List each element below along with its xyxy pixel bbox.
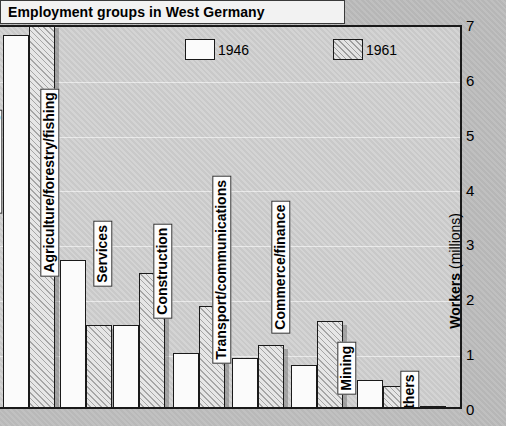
y-axis-title: Workers (millions) [447,213,463,329]
chart-title-box: Employment groups in West Germany [0,0,345,24]
chart-figure: 19461961 ManufacturingAgriculture/forest… [0,0,506,426]
category-labels: ManufacturingAgriculture/forestry/fishin… [0,0,460,426]
y-axis-title-main: Workers [447,273,463,329]
y-tick-1: 1 [466,346,474,363]
y-tick-5: 5 [466,126,474,143]
bottom-strip [0,409,506,426]
category-label-transport-communications: Transport/communications [212,176,231,364]
y-tick-4: 4 [466,181,474,198]
y-tick-0: 0 [466,401,474,418]
y-tick-3: 3 [466,236,474,253]
category-label-commerce-finance: Commerce/finance [271,200,290,333]
y-tick-6: 6 [466,71,474,88]
y-axis-title-unit [447,269,463,273]
category-label-manufacturing: Manufacturing [0,109,2,213]
category-label-construction: Construction [153,224,172,319]
category-label-agriculture-forestry-fishing: Agriculture/forestry/fishing [40,88,59,276]
y-tick-2: 2 [466,291,474,308]
y-axis-title-unit-text: (millions) [447,213,463,269]
y-tick-7: 7 [466,17,474,34]
category-label-services: Services [93,221,112,287]
category-label-mining: Mining [337,342,356,395]
page-title: Employment groups in West Germany [1,4,265,20]
